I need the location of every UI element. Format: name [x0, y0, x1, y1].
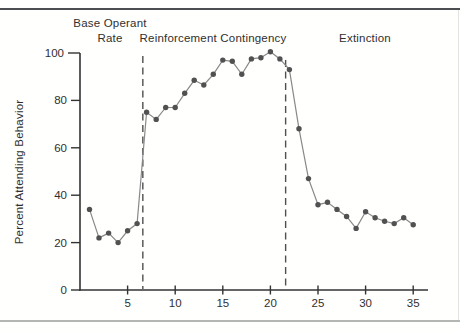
x-tick-label-5: 5 [124, 297, 130, 309]
data-point [268, 49, 273, 54]
data-point [192, 78, 197, 83]
data-point [325, 200, 330, 205]
y-tick-label-80: 80 [54, 94, 67, 106]
data-point [372, 215, 377, 220]
data-point [125, 228, 130, 233]
data-point [87, 207, 92, 212]
data-point [334, 207, 339, 212]
data-point [173, 105, 178, 110]
y-tick-label-60: 60 [54, 142, 67, 154]
x-tick-label-35: 35 [407, 297, 420, 309]
data-point [382, 219, 387, 224]
x-tick-label-15: 15 [216, 297, 229, 309]
data-point [344, 214, 349, 219]
y-tick-label-40: 40 [54, 189, 67, 201]
data-point [115, 240, 120, 245]
data-point [211, 72, 216, 77]
x-tick-label-25: 25 [312, 297, 325, 309]
data-point [201, 82, 206, 87]
data-point [315, 202, 320, 207]
x-tick-label-30: 30 [359, 297, 372, 309]
data-point [249, 56, 254, 61]
y-tick-label-20: 20 [54, 237, 67, 249]
figure-page: Base Operant Rate Reinforcement Continge… [0, 0, 460, 333]
x-tick-label-20: 20 [264, 297, 277, 309]
bottom-rule [0, 320, 460, 322]
data-point [106, 230, 111, 235]
data-point [230, 59, 235, 64]
chart-canvas: 0204060801005101520253035 [0, 0, 460, 333]
data-point [96, 235, 101, 240]
data-point [277, 56, 282, 61]
data-point [363, 209, 368, 214]
data-point [306, 176, 311, 181]
data-point [154, 117, 159, 122]
data-point [411, 222, 416, 227]
data-point [163, 105, 168, 110]
data-point [134, 221, 139, 226]
data-point [401, 215, 406, 220]
data-point [353, 226, 358, 231]
data-point [287, 67, 292, 72]
data-point [258, 55, 263, 60]
x-tick-label-10: 10 [169, 297, 182, 309]
data-point [182, 91, 187, 96]
data-point [296, 126, 301, 131]
data-point [239, 72, 244, 77]
y-tick-label-0: 0 [61, 284, 67, 296]
data-point [144, 110, 149, 115]
page-right-edge [458, 10, 459, 320]
data-point [220, 57, 225, 62]
attending-behavior-chart: 0204060801005101520253035 [0, 0, 460, 333]
y-tick-label-100: 100 [45, 47, 64, 59]
data-point [392, 221, 397, 226]
